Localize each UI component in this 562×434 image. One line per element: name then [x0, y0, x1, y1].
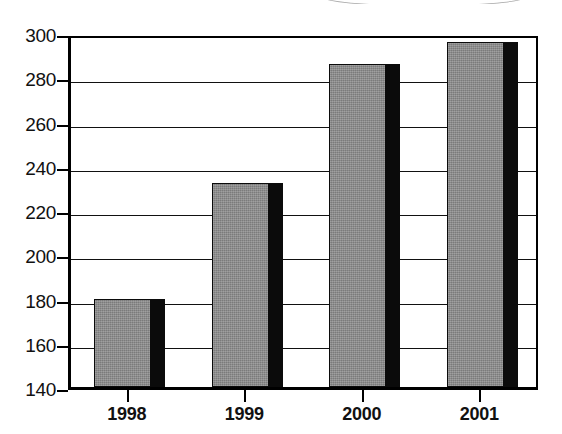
bar-face — [212, 183, 269, 387]
x-axis-tick — [244, 390, 246, 402]
y-axis-tick-label: 220 — [10, 203, 56, 222]
x-axis-tick — [479, 390, 481, 402]
bar-face — [94, 299, 151, 388]
bar — [329, 64, 400, 387]
y-axis-tick — [57, 169, 68, 171]
x-axis-tick — [127, 390, 129, 402]
y-axis-tick — [57, 390, 68, 392]
bar — [212, 183, 283, 387]
y-axis-tick-label: 160 — [10, 336, 56, 355]
bar — [94, 299, 165, 388]
y-axis-tick-label: 200 — [10, 247, 56, 266]
y-axis-tick-label: 300 — [10, 26, 56, 45]
y-axis-tick-label: 260 — [10, 115, 56, 134]
x-axis-tick — [362, 390, 364, 402]
x-axis-tick-label: 2001 — [434, 405, 524, 423]
bar-side-shadow — [151, 299, 165, 388]
y-axis-tick — [57, 257, 68, 259]
y-axis-tick — [57, 346, 68, 348]
x-axis-tick-label: 1999 — [199, 405, 289, 423]
x-axis-tick-label: 1998 — [82, 405, 172, 423]
y-axis-tick — [57, 302, 68, 304]
bar-chart: 140160180200220240260280300 199819992000… — [0, 0, 562, 434]
bar-face — [447, 42, 504, 387]
y-axis-tick — [57, 36, 68, 38]
bar-side-shadow — [269, 183, 283, 387]
y-axis-tick-label: 240 — [10, 159, 56, 178]
y-axis-tick — [57, 213, 68, 215]
bar-side-shadow — [386, 64, 400, 387]
y-axis-tick-label: 140 — [10, 380, 56, 399]
bar — [447, 42, 518, 387]
caption-crop-mask — [300, 4, 562, 18]
plot-area — [68, 36, 538, 390]
y-axis-tick-label: 180 — [10, 292, 56, 311]
x-axis-tick-label: 2000 — [317, 405, 407, 423]
y-axis-tick — [57, 125, 68, 127]
bar-side-shadow — [504, 42, 518, 387]
bar-face — [329, 64, 386, 387]
y-axis-tick — [57, 80, 68, 82]
y-axis-tick-label: 280 — [10, 70, 56, 89]
